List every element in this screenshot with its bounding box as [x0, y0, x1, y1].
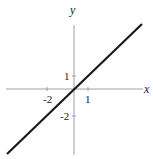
- y-tick-label: -2: [60, 110, 69, 122]
- x-axis-label: x: [143, 82, 150, 96]
- graph: -2 1 1 -2 x y: [0, 0, 153, 159]
- y-tick-label: 1: [64, 70, 70, 82]
- x-tick-label: 1: [85, 93, 91, 105]
- y-axis-label: y: [69, 3, 76, 17]
- x-tick-label: -2: [43, 93, 52, 105]
